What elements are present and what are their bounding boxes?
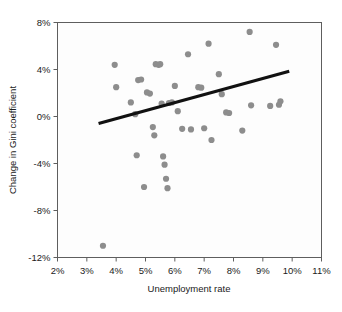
x-tick-label: 9% <box>256 265 270 276</box>
data-point <box>163 176 169 182</box>
y-tick-label: -8% <box>34 205 51 216</box>
data-point <box>100 243 106 249</box>
y-tick-label: 4% <box>37 64 51 75</box>
data-point <box>172 83 178 89</box>
data-point <box>112 62 118 68</box>
data-point <box>128 99 134 105</box>
scatter-chart: 8%4%0%-4%-8%-12% 2%3%4%5%6%7%8%9%10%11% … <box>0 0 342 312</box>
x-tick-label: 2% <box>51 265 65 276</box>
data-point <box>267 103 273 109</box>
y-tick-label: -12% <box>28 252 51 263</box>
data-point <box>248 102 254 108</box>
data-point <box>179 126 185 132</box>
plot-area-frame <box>58 23 322 258</box>
x-tick-label: 11% <box>312 265 331 276</box>
data-point <box>205 41 211 47</box>
x-tick-label: 4% <box>109 265 123 276</box>
data-point <box>175 108 181 114</box>
y-tick-label: 8% <box>37 17 51 28</box>
data-point <box>161 162 167 168</box>
x-tick-label: 5% <box>139 265 153 276</box>
data-point <box>277 98 283 104</box>
x-tick-label: 10% <box>283 265 303 276</box>
data-point <box>138 76 144 82</box>
data-point <box>113 84 119 90</box>
x-tick-label: 6% <box>168 265 182 276</box>
data-point <box>226 110 232 116</box>
x-tick-label: 8% <box>227 265 241 276</box>
y-tick-label: 0% <box>37 111 51 122</box>
data-point <box>188 126 194 132</box>
data-point <box>157 61 163 67</box>
y-tick-label: -4% <box>34 158 51 169</box>
data-point <box>150 124 156 130</box>
x-tick-label: 7% <box>197 265 211 276</box>
data-point <box>216 71 222 77</box>
data-point <box>208 137 214 143</box>
data-point <box>239 128 245 134</box>
data-point <box>201 125 207 131</box>
data-point <box>151 132 157 138</box>
data-point <box>185 51 191 57</box>
data-point <box>134 152 140 158</box>
x-tick-label: 3% <box>80 265 94 276</box>
chart-canvas: 8%4%0%-4%-8%-12% 2%3%4%5%6%7%8%9%10%11% … <box>0 0 342 312</box>
data-point <box>198 85 204 91</box>
data-point <box>141 184 147 190</box>
data-point <box>273 42 279 48</box>
y-axis-title: Change in Gini coefficient <box>7 86 18 194</box>
data-point <box>147 90 153 96</box>
data-point <box>160 153 166 159</box>
data-point <box>164 185 170 191</box>
x-axis-title: Unemployment rate <box>148 283 231 294</box>
data-point <box>247 29 253 35</box>
